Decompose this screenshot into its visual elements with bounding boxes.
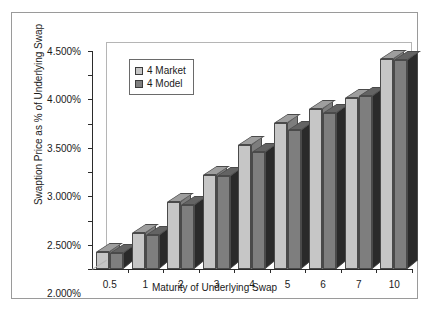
x-tick: [234, 269, 235, 273]
chart-legend: 4 Market4 Model: [129, 59, 194, 95]
bar-4-market-6: [309, 51, 322, 269]
x-tick: [305, 269, 306, 273]
bar-4-market-3: [203, 51, 216, 269]
x-tick: [341, 269, 342, 273]
y-tick: 4.000%: [88, 75, 92, 76]
x-tick-label: 10: [389, 279, 400, 290]
bar-front-face: [203, 175, 216, 269]
legend-swatch-icon: [135, 80, 143, 88]
bar-front-face: [167, 202, 180, 269]
bar-front-face: [146, 235, 159, 269]
legend-label: 4 Market: [147, 65, 186, 76]
bar-front-face: [110, 253, 123, 269]
y-tick-label: 4.500%: [47, 46, 81, 57]
x-tick-label: 2: [178, 279, 184, 290]
bar-front-face: [181, 205, 194, 269]
bar-4-model-4: [252, 51, 265, 269]
bar-front-face: [96, 252, 109, 269]
bar-front-face: [238, 145, 251, 269]
y-tick: 2.000%: [88, 172, 92, 173]
bar-front-face: [394, 60, 407, 269]
bar-front-face: [359, 96, 372, 269]
y-axis-line: [92, 51, 93, 270]
y-axis-title: Swaption Price as % of Underlying Swap: [33, 15, 44, 215]
bar-4-model-5: [288, 51, 301, 269]
legend-label: 4 Model: [147, 78, 183, 89]
bar-4-market-4: [238, 51, 251, 269]
x-tick: [163, 269, 164, 273]
bar-front-face: [380, 59, 393, 269]
x-tick: [376, 269, 377, 273]
bar-front-face: [274, 123, 287, 269]
y-tick: 3.000%: [88, 124, 92, 125]
y-tick: 0.500%: [88, 245, 92, 246]
x-tick: [270, 269, 271, 273]
bar-4-market-7: [345, 51, 358, 269]
x-tick: [128, 269, 129, 273]
y-tick: 1.000%: [88, 221, 92, 222]
bar-4-market-0.5: [96, 51, 109, 269]
y-tick: 3.500%: [88, 99, 92, 100]
y-tick-label: 4.000%: [47, 94, 81, 105]
bar-4-model-3: [217, 51, 230, 269]
bar-front-face: [132, 233, 145, 269]
x-tick: [412, 269, 413, 273]
legend-entry: 4 Market: [135, 64, 186, 77]
y-tick: 4.500%: [88, 51, 92, 52]
y-tick-label: 3.500%: [47, 142, 81, 153]
y-tick-label: 2.500%: [47, 239, 81, 250]
x-tick-label: 6: [320, 279, 326, 290]
bar-front-face: [309, 109, 322, 269]
bar-front-face: [345, 98, 358, 269]
bar-front-face: [323, 113, 336, 269]
legend-entry: 4 Model: [135, 77, 186, 90]
y-tick: 2.500%: [88, 148, 92, 149]
bar-4-market-10: [380, 51, 393, 269]
x-tick-label: 0.5: [103, 279, 117, 290]
bar-4-model-6: [323, 51, 336, 269]
legend-swatch-icon: [135, 67, 143, 75]
bar-4-model-0.5: [110, 51, 123, 269]
chart-frame: Swaption Price as % of Underlying Swap M…: [11, 12, 418, 299]
bar-4-model-7: [359, 51, 372, 269]
x-tick-label: 7: [356, 279, 362, 290]
x-tick: [199, 269, 200, 273]
x-tick-label: 3: [214, 279, 220, 290]
bar-4-market-5: [274, 51, 287, 269]
x-tick-label: 1: [143, 279, 149, 290]
y-tick-label: 2.000%: [47, 288, 81, 299]
x-axis-line: [92, 269, 412, 270]
bar-front-face: [288, 130, 301, 269]
x-tick-label: 4: [249, 279, 255, 290]
y-tick-label: 3.000%: [47, 191, 81, 202]
bar-front-face: [252, 152, 265, 269]
y-tick: 1.500%: [88, 196, 92, 197]
bar-front-face: [217, 176, 230, 269]
x-tick-label: 5: [285, 279, 291, 290]
bar-side-face: [407, 51, 418, 269]
bar-4-model-10: [394, 51, 407, 269]
